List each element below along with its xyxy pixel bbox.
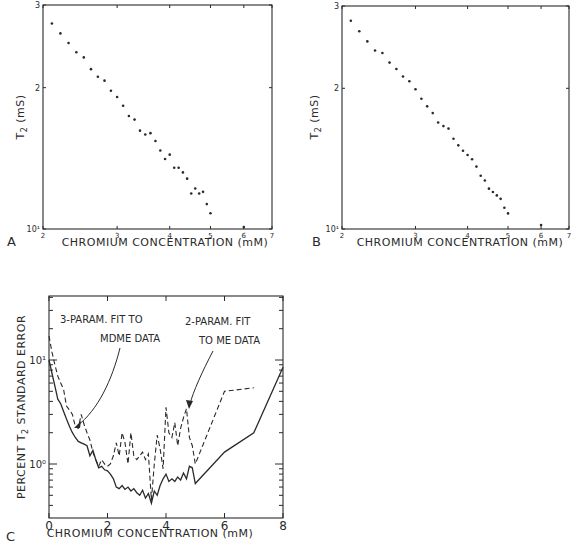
panel-c: 0246810⁰10¹CCHROMIUM CONCENTRATION (mM)P…	[6, 296, 287, 544]
data-point	[182, 171, 185, 174]
y-tick-label: 10¹	[326, 225, 339, 234]
data-point	[67, 42, 70, 45]
data-point	[194, 187, 197, 190]
data-point	[466, 154, 469, 157]
data-point	[484, 179, 487, 182]
data-point	[462, 149, 465, 152]
panel-letter: B	[312, 234, 321, 249]
data-point	[350, 19, 353, 22]
y-tick-label: 2	[334, 84, 339, 93]
arrowhead-icon	[186, 400, 193, 409]
panel-a: 23456710¹23ACHROMIUM CONCENTRATION (mM)T…	[7, 1, 274, 249]
data-point	[209, 212, 212, 215]
y-axis-label: PERCENT T2 STANDARD ERROR	[15, 315, 30, 499]
data-point	[408, 80, 411, 83]
data-point	[452, 137, 455, 140]
annotation-arrow	[77, 348, 120, 426]
figure-canvas: 23456710¹23ACHROMIUM CONCENTRATION (mM)T…	[0, 0, 578, 547]
y-tick-label: 3	[35, 1, 40, 10]
data-point	[110, 89, 113, 92]
data-point	[457, 144, 460, 147]
annotation-2param: 2-PARAM. FIT	[185, 316, 251, 327]
data-point	[133, 118, 136, 121]
y-axis-label: T2 (mS)	[14, 94, 29, 140]
data-point	[496, 194, 499, 197]
data-point	[75, 51, 78, 54]
x-axis-label: CHROMIUM CONCENTRATION (mM)	[47, 527, 254, 540]
data-point	[97, 75, 100, 78]
x-axis-label: CHROMIUM CONCENTRATION (mM)	[357, 236, 564, 249]
data-point	[426, 105, 429, 108]
series-3param-mdme	[49, 360, 283, 503]
data-point	[90, 68, 93, 71]
data-point	[128, 115, 131, 118]
data-point	[186, 177, 189, 180]
data-point	[149, 132, 152, 135]
data-point	[144, 133, 147, 136]
data-point	[447, 127, 450, 130]
annotation-3param: 3-PARAM. FIT TO	[60, 314, 143, 325]
data-point	[437, 121, 440, 124]
data-point	[471, 158, 474, 161]
data-point	[82, 56, 85, 59]
data-point	[173, 167, 176, 170]
annotation-3param: MDME DATA	[100, 333, 160, 344]
annotation-arrow	[190, 351, 213, 404]
data-point	[164, 158, 167, 161]
data-point	[190, 192, 193, 195]
data-point	[381, 52, 384, 55]
data-point	[479, 174, 482, 177]
data-point	[154, 140, 157, 143]
data-point	[475, 165, 478, 168]
data-point	[358, 30, 361, 33]
series-2param-me	[49, 336, 254, 500]
annotation-2param: TO ME DATA	[198, 335, 260, 346]
y-tick-label: 10¹	[27, 225, 40, 234]
y-axis-label: T2 (mS)	[308, 94, 323, 140]
x-tick-label: 8	[279, 519, 287, 533]
data-point	[159, 149, 162, 152]
y-tick-label: 2	[35, 84, 40, 93]
y-tick-label: 10⁰	[29, 459, 46, 470]
plot-frame	[43, 5, 272, 229]
data-point	[198, 192, 201, 195]
data-point	[395, 68, 398, 71]
data-point	[59, 32, 62, 35]
data-point	[202, 191, 205, 194]
data-point	[374, 49, 377, 52]
plot-frame	[342, 6, 569, 229]
data-point	[414, 88, 417, 91]
plot-frame	[49, 296, 283, 518]
data-point	[103, 79, 106, 82]
x-tick-label: 2	[41, 232, 45, 240]
panel-b: 23456710¹23BCHROMIUM CONCENTRATION (mM)T…	[308, 2, 571, 249]
y-tick-label: 10¹	[29, 355, 46, 366]
x-tick-label: 2	[340, 232, 344, 240]
x-tick-label: 7	[270, 232, 274, 240]
data-point	[122, 104, 125, 107]
data-point	[499, 198, 502, 201]
y-tick-label: 3	[334, 2, 339, 11]
data-point	[420, 97, 423, 100]
data-point	[168, 153, 171, 156]
panel-letter: A	[7, 234, 16, 249]
data-point	[507, 212, 510, 215]
data-point	[388, 61, 391, 64]
panel-letter: C	[6, 529, 15, 544]
data-point	[139, 129, 142, 132]
data-point	[540, 224, 543, 227]
data-point	[503, 207, 506, 210]
data-point	[442, 125, 445, 128]
data-point	[206, 203, 209, 206]
data-point	[243, 226, 246, 229]
data-point	[488, 187, 491, 190]
x-tick-label: 7	[567, 232, 571, 240]
data-point	[402, 75, 405, 78]
x-axis-label: CHROMIUM CONCENTRATION (mM)	[62, 236, 269, 249]
data-point	[431, 112, 434, 115]
data-point	[366, 40, 369, 43]
data-point	[177, 167, 180, 170]
data-point	[492, 191, 495, 194]
data-point	[116, 96, 119, 99]
data-point	[51, 22, 54, 25]
